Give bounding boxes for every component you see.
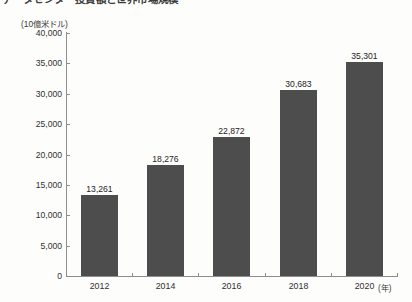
y-tick-label: 30,000: [4, 89, 62, 99]
bar-value-label: 18,276: [135, 154, 197, 164]
y-tick-label: 25,000: [4, 119, 62, 129]
y-tick-label: 15,000: [4, 180, 62, 190]
bar-value-label: 13,261: [69, 184, 131, 194]
x-axis-label-2016: 2016: [202, 281, 262, 291]
bar-2014: [147, 165, 184, 276]
y-tick-label: 35,000: [4, 58, 62, 68]
bar-value-label: 30,683: [268, 79, 330, 89]
bar-2012: [81, 195, 118, 276]
x-axis-label-2018: 2018: [269, 281, 329, 291]
x-axis-unit-label: (年): [378, 281, 391, 293]
y-tick-label: 10,000: [4, 210, 62, 220]
bar-value-label: 22,872: [201, 126, 263, 136]
y-tick-label: 40,000: [4, 28, 62, 38]
bar-2020: [346, 62, 383, 276]
bar-value-label: 35,301: [334, 51, 396, 61]
y-tick-label: 5,000: [4, 241, 62, 251]
y-tick-label: 20,000: [4, 150, 62, 160]
x-axis-line: [66, 276, 398, 277]
bar-2018: [280, 90, 317, 276]
x-axis-label-2012: 2012: [70, 281, 130, 291]
y-tick-label: 0: [4, 271, 62, 281]
bar-2016: [213, 137, 250, 276]
x-axis-label-2014: 2014: [136, 281, 196, 291]
plot-area: [66, 33, 398, 276]
y-axis-tick-labels: 40,000 35,000 30,000 25,000 20,000 15,00…: [0, 0, 62, 302]
chart-page: データセンター投資額と世界市場規模 (10億米ドル) 40,000 35,000…: [0, 0, 412, 302]
